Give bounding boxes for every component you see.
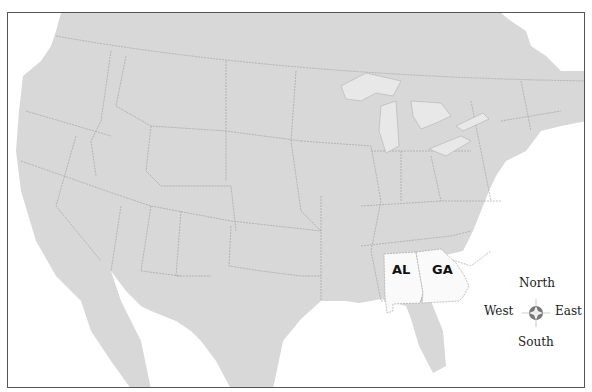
compass-west-label: West bbox=[484, 304, 513, 318]
compass-rose-icon bbox=[522, 299, 550, 327]
compass-east-label: East bbox=[555, 304, 582, 318]
state-label-alabama: AL bbox=[392, 262, 410, 277]
canada-landmass bbox=[16, 13, 585, 388]
compass-south-label: South bbox=[518, 335, 554, 349]
state-label-georgia: GA bbox=[432, 262, 453, 277]
map-frame bbox=[7, 12, 585, 388]
compass-north-label: North bbox=[519, 276, 555, 290]
us-map bbox=[8, 13, 585, 388]
